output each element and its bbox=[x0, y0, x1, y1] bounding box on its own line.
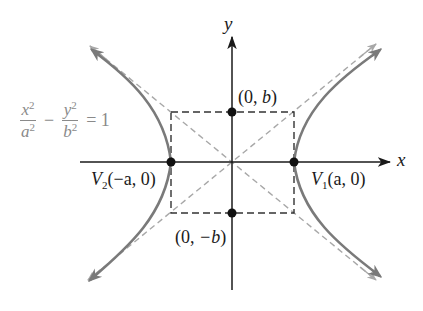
vertex-v2-coords: (−a, 0) bbox=[108, 169, 156, 189]
vertex-v2-point bbox=[167, 158, 176, 167]
co-vertex-bottom-label: (0, −b) bbox=[175, 228, 226, 246]
y-axis-label: y bbox=[224, 14, 232, 33]
co-vertex-bottom-coords-close: ) bbox=[220, 227, 226, 247]
co-vertex-bottom-coords-open: (0, bbox=[175, 227, 199, 247]
vertex-v2-label: V2(−a, 0) bbox=[91, 170, 156, 188]
vertex-v2-subscript: 2 bbox=[102, 179, 108, 191]
diagram-canvas bbox=[0, 0, 423, 311]
right-branch-arrow-top bbox=[372, 49, 381, 56]
right-branch-arrow-bottom bbox=[372, 270, 381, 277]
left-branch-arrow-bottom bbox=[89, 273, 98, 281]
eq-x: x bbox=[21, 100, 29, 119]
co-vertex-top-label: (0, b) bbox=[238, 88, 277, 106]
eq-minus: − bbox=[44, 110, 54, 131]
co-vertex-bottom-var: −b bbox=[199, 227, 220, 247]
hyperbola-right-branch bbox=[294, 50, 380, 276]
equation-term-y: y2 b2 bbox=[62, 100, 78, 141]
eq-a: a bbox=[21, 122, 30, 141]
vertex-v1-label: V1(a, 0) bbox=[311, 170, 365, 188]
vertex-v1-name: V bbox=[311, 169, 322, 189]
eq-a-exponent: 2 bbox=[30, 121, 36, 133]
asymptote-negative-slope-arrow-end bbox=[360, 267, 376, 280]
eq-equals-one: = 1 bbox=[86, 110, 110, 131]
vertex-v1-point bbox=[290, 158, 299, 167]
asymptote-negative-slope bbox=[90, 46, 376, 280]
eq-b: b bbox=[63, 122, 72, 141]
vertex-v1-coords: (a, 0) bbox=[328, 169, 366, 189]
asymptote-negative-slope-arrow-start bbox=[90, 46, 106, 59]
co-vertex-bottom-point bbox=[228, 209, 237, 218]
eq-x-exponent: 2 bbox=[29, 99, 35, 111]
vertex-v2-name: V bbox=[91, 169, 102, 189]
x-axis-label: x bbox=[397, 150, 405, 169]
co-vertex-top-var: b bbox=[262, 87, 271, 107]
co-vertex-top-coords-open: (0, bbox=[238, 87, 262, 107]
eq-b-exponent: 2 bbox=[72, 121, 78, 133]
co-vertex-top-coords-close: ) bbox=[271, 87, 277, 107]
equation-term-x: x2 a2 bbox=[20, 100, 36, 141]
hyperbola-equation: x2 a2 − y2 b2 = 1 bbox=[20, 100, 114, 141]
eq-y-exponent: 2 bbox=[71, 99, 77, 111]
hyperbola-diagram: y x (0, b) (0, −b) V2(−a, 0) V1(a, 0) x2… bbox=[0, 0, 423, 311]
co-vertex-top-point bbox=[228, 108, 237, 117]
vertex-v1-subscript: 1 bbox=[322, 179, 328, 191]
